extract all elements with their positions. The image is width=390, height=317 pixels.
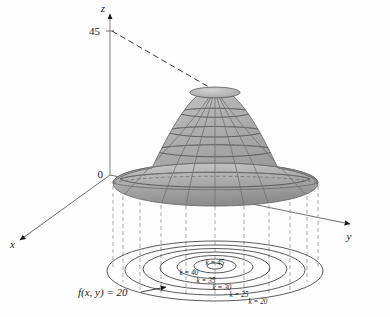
- surface-3d: [113, 87, 318, 206]
- surface-contour-figure: z 45 0 x y k = 45 k = 40 k = 35 k = 30 k…: [0, 0, 390, 317]
- z-axis-label: z: [100, 2, 106, 14]
- fxy-callout-leader-group: [141, 287, 166, 292]
- contour-label-k40: k = 40: [180, 269, 199, 277]
- contour-label-k25: k = 25: [230, 291, 249, 299]
- x-axis-line: [20, 175, 110, 240]
- x-axis-label: x: [9, 238, 15, 250]
- z-45-leader-dashed: [112, 31, 214, 90]
- contour-label-k20: k = 20: [249, 298, 268, 306]
- z-tick-label-45: 45: [89, 25, 101, 37]
- fxy-callout-leader: [141, 287, 166, 292]
- contour-label-k45: k = 45: [206, 259, 225, 267]
- figure-canvas: z 45 0 x y k = 45 k = 40 k = 35 k = 30 k…: [0, 0, 390, 317]
- surface-apex-cap: [190, 87, 240, 98]
- origin-label: 0: [98, 168, 104, 180]
- y-axis-label: y: [346, 230, 352, 242]
- fxy-callout-label: f(x, y) = 20: [78, 286, 128, 299]
